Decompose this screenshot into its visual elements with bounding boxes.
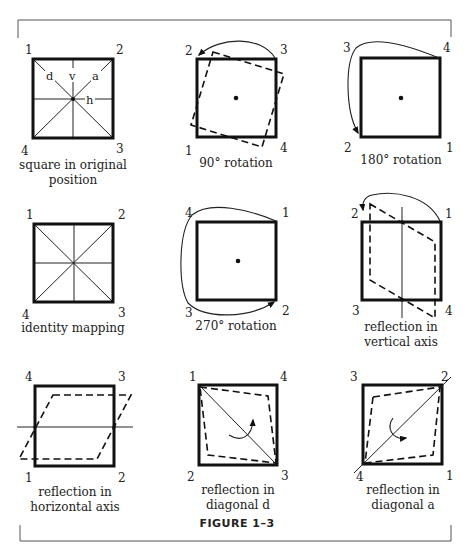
square: [35, 386, 114, 466]
caption-line-1: square in original: [19, 158, 127, 172]
corner-label-br: 4: [445, 304, 453, 318]
corner-label-tl: 3: [343, 41, 351, 55]
caption-line-1: identity mapping: [21, 321, 125, 335]
corner-label-bl: 1: [25, 471, 33, 485]
corner-label-tl: 1: [189, 370, 197, 384]
corner-label-tl: 2: [351, 207, 359, 221]
panel-reflection-vertical: 2 1 4 3 reflection in vertical axis: [351, 193, 453, 349]
label-a: a: [92, 69, 99, 83]
corner-label-tl: 4: [185, 206, 193, 220]
corner-label-tr: 1: [445, 207, 453, 221]
panel-reflection-diagonal-d: 1 4 3 2 reflection in diagonal d: [187, 370, 289, 512]
corner-label-bl: 2: [344, 141, 352, 155]
corner-label-tr: 3: [118, 370, 126, 384]
figure-title: FIGURE 1–3: [199, 517, 274, 530]
corner-label-br: 4: [280, 141, 288, 155]
corner-label-bl: 1: [185, 144, 193, 158]
reflection-arrow: [229, 420, 253, 438]
corner-label-tl: 4: [25, 370, 33, 384]
center-point: [399, 96, 404, 101]
corner-label-bl: 2: [187, 470, 195, 484]
corner-label-tr: 4: [443, 41, 451, 55]
corner-label-tr: 2: [116, 43, 124, 57]
panel-rotation-270: 4 1 2 3 270° rotation: [181, 206, 290, 333]
corner-label-bl: 3: [185, 306, 193, 320]
corner-label-tr: 2: [441, 370, 449, 384]
corner-label-tr: 2: [118, 208, 126, 222]
caption-line-1: 270° rotation: [195, 319, 277, 333]
corner-label-bl: 4: [356, 470, 364, 484]
caption-line-2: horizontal axis: [30, 500, 119, 514]
caption-line-2: vertical axis: [363, 335, 438, 349]
caption-line-1: reflection in: [38, 485, 112, 499]
corner-label-tr: 4: [280, 370, 288, 384]
panel-identity: 1 2 3 4 identity mapping: [21, 208, 125, 335]
corner-label-tl: 2: [185, 44, 193, 58]
corner-label-br: 3: [116, 142, 124, 156]
label-d: d: [46, 69, 54, 83]
corner-label-tl: 1: [26, 208, 34, 222]
label-v: v: [68, 69, 76, 83]
corner-label-br: 1: [446, 141, 454, 155]
caption-line-1: 90° rotation: [199, 156, 273, 170]
corner-label-br: 3: [281, 469, 289, 483]
caption-line-2: diagonal a: [371, 498, 434, 512]
panel-reflection-horizontal: 4 3 2 1 reflection in horizontal axis: [17, 370, 133, 514]
corner-label-bl: 4: [21, 144, 29, 158]
panel-rotation-180: 3 4 1 2 180° rotation: [343, 41, 454, 167]
corner-label-br: 2: [282, 304, 290, 318]
corner-label-tl: 3: [350, 370, 358, 384]
corner-label-br: 1: [446, 469, 454, 483]
corner-label-tr: 1: [282, 206, 290, 220]
center-point: [236, 259, 241, 264]
panel-original: d v a h 1 2 3 4 square in original posit…: [19, 43, 127, 187]
label-h: h: [86, 93, 94, 107]
caption-line-2: diagonal d: [206, 498, 270, 512]
corner-label-bl: 4: [22, 308, 30, 322]
panel-reflection-diagonal-a: 3 2 1 4 reflection in diagonal a: [350, 370, 454, 512]
corner-label-br: 2: [118, 471, 126, 485]
panel-rotation-90: 2 3 4 1 90° rotation: [185, 41, 288, 170]
diagonal-d-line: [199, 385, 277, 465]
corner-label-br: 3: [118, 306, 126, 320]
top-frame-bracket: [18, 20, 451, 38]
corner-label-bl: 3: [352, 304, 360, 318]
caption-line-2: position: [49, 173, 98, 187]
center-point: [234, 96, 239, 101]
corner-label-tr: 3: [280, 43, 288, 57]
caption-line-1: reflection in: [366, 483, 440, 497]
caption-line-1: reflection in: [364, 320, 438, 334]
center-point: [71, 97, 75, 101]
caption-line-1: reflection in: [201, 483, 275, 497]
caption-line-1: 180° rotation: [360, 153, 442, 167]
corner-label-tl: 1: [25, 43, 33, 57]
figure-canvas: d v a h 1 2 3 4 square in original posit…: [0, 0, 474, 556]
rotation-arrow: [199, 41, 275, 58]
